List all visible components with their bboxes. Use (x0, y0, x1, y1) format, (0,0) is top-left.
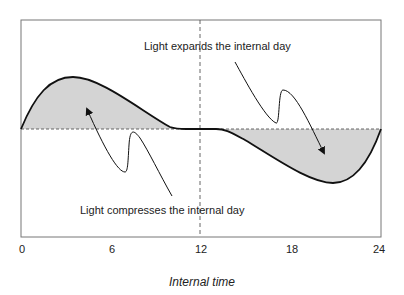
x-tick-6: 6 (109, 243, 115, 255)
x-tick-0: 0 (19, 243, 25, 255)
x-axis-label: Internal time (0, 275, 404, 289)
x-tick-12: 12 (195, 243, 207, 255)
annotation-expands: Light expands the internal day (144, 40, 291, 52)
annotation-compresses: Light compresses the internal day (80, 204, 244, 216)
x-tick-18: 18 (286, 243, 298, 255)
x-tick-24: 24 (373, 243, 385, 255)
